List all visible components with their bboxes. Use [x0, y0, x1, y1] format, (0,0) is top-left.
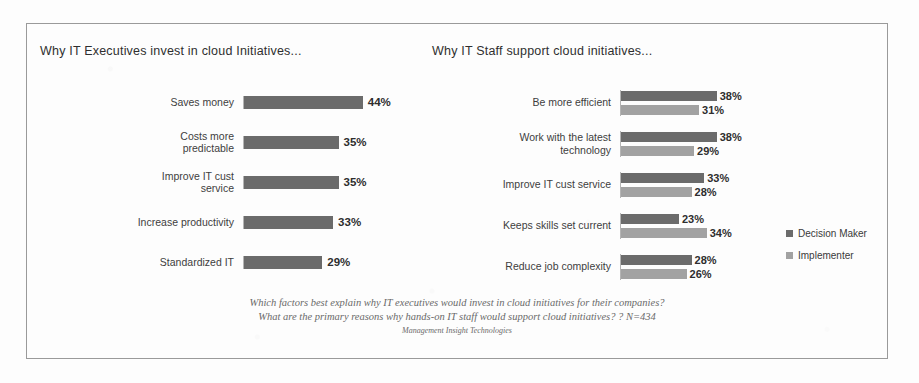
bar-with-value: 23%	[621, 213, 782, 225]
bar-pair: 38%31%	[621, 90, 782, 116]
category-label: Standardized IT	[110, 256, 243, 269]
category-label: Be more efficient	[452, 96, 620, 109]
bar-with-value: 31%	[621, 104, 782, 116]
chart-row: Be more efficient38%31%	[452, 82, 782, 123]
bar-with-value: 29%	[244, 256, 410, 269]
bar-implementer	[621, 187, 692, 197]
plot-area: 23%34%	[620, 213, 782, 239]
bar-implementer	[621, 269, 687, 279]
left-bar-chart: Saves money44%Costs morepredictable35%Im…	[110, 82, 410, 282]
category-label: Increase productivity	[110, 216, 243, 229]
bar-value-label: 34%	[707, 227, 732, 239]
plot-area: 35%	[243, 136, 410, 149]
chart-row: Improve IT custservice35%	[110, 162, 410, 202]
bar-value-label: 38%	[717, 131, 742, 143]
bar-value-label: 35%	[339, 176, 367, 188]
bar-decision-maker	[244, 176, 339, 189]
category-label: Saves money	[110, 96, 243, 109]
bar-value-label: 33%	[704, 172, 729, 184]
bar-value-label: 28%	[692, 254, 717, 266]
bar-with-value: 44%	[244, 96, 410, 109]
bar-with-value: 29%	[621, 145, 782, 157]
plot-area: 29%	[243, 256, 410, 269]
bar-decision-maker	[621, 214, 679, 224]
bar-value-label: 35%	[339, 136, 367, 148]
bar-with-value: 33%	[244, 216, 410, 229]
legend-label: Decision Maker	[798, 228, 867, 239]
plot-area: 28%26%	[620, 254, 782, 280]
chart-row: Work with the latesttechnology38%29%	[452, 123, 782, 164]
bar-pair: 23%34%	[621, 213, 782, 239]
bar-decision-maker	[621, 91, 717, 101]
footnote-line-2: What are the primary reasons why hands-o…	[26, 310, 888, 324]
bar-value-label: 44%	[363, 96, 391, 108]
plot-area: 38%29%	[620, 131, 782, 157]
legend-item: Implementer	[786, 250, 867, 261]
category-label: Improve IT cust service	[452, 178, 620, 191]
chart-row: Standardized IT29%	[110, 242, 410, 282]
bar-value-label: 38%	[717, 90, 742, 102]
chart-row: Reduce job complexity28%26%	[452, 246, 782, 287]
bar-decision-maker	[244, 96, 363, 109]
category-label: Keeps skills set current	[452, 219, 620, 232]
right-chart-title: Why IT Staff support cloud initiatives..…	[432, 44, 652, 58]
plot-area: 35%	[243, 176, 410, 189]
bar-value-label: 33%	[333, 216, 361, 228]
bar-value-label: 29%	[694, 145, 719, 157]
category-label: Reduce job complexity	[452, 260, 620, 273]
plot-area: 33%28%	[620, 172, 782, 198]
bar-decision-maker	[621, 255, 692, 265]
plot-area: 44%	[243, 96, 410, 109]
bar-pair: 33%28%	[621, 172, 782, 198]
bar-pair: 38%29%	[621, 131, 782, 157]
bar-decision-maker	[244, 256, 322, 269]
bar-value-label: 31%	[699, 104, 724, 116]
bar-with-value: 28%	[621, 254, 782, 266]
legend-swatch-icon	[786, 252, 793, 259]
bar-value-label: 26%	[687, 268, 712, 280]
bar-decision-maker	[621, 173, 704, 183]
bar-value-label: 29%	[322, 256, 350, 268]
chart-row: Keeps skills set current23%34%	[452, 205, 782, 246]
chart-row: Increase productivity33%	[110, 202, 410, 242]
bar-value-label: 23%	[679, 213, 704, 225]
bar-implementer	[621, 105, 699, 115]
bar-pair: 28%26%	[621, 254, 782, 280]
bar-implementer	[621, 146, 694, 156]
bar-with-value: 38%	[621, 131, 782, 143]
category-label: Work with the latesttechnology	[452, 131, 620, 156]
chart-row: Saves money44%	[110, 82, 410, 122]
category-label: Improve IT custservice	[110, 170, 243, 195]
footnote-source: Management Insight Technologies	[26, 325, 888, 337]
bar-with-value: 38%	[621, 90, 782, 102]
category-label: Costs morepredictable	[110, 130, 243, 155]
legend-swatch-icon	[786, 230, 793, 237]
bar-with-value: 35%	[244, 136, 410, 149]
bar-decision-maker	[621, 132, 717, 142]
bar-with-value: 34%	[621, 227, 782, 239]
plot-area: 38%31%	[620, 90, 782, 116]
bar-with-value: 33%	[621, 172, 782, 184]
bar-with-value: 35%	[244, 176, 410, 189]
chart-legend: Decision MakerImplementer	[786, 228, 867, 272]
bar-value-label: 28%	[692, 186, 717, 198]
bar-with-value: 26%	[621, 268, 782, 280]
chart-row: Costs morepredictable35%	[110, 122, 410, 162]
legend-item: Decision Maker	[786, 228, 867, 239]
chart-row: Improve IT cust service33%28%	[452, 164, 782, 205]
bar-with-value: 28%	[621, 186, 782, 198]
bar-decision-maker	[244, 136, 339, 149]
bar-implementer	[621, 228, 707, 238]
legend-label: Implementer	[798, 250, 854, 261]
bar-decision-maker	[244, 216, 333, 229]
plot-area: 33%	[243, 216, 410, 229]
footnote-line-1: Which factors best explain why IT execut…	[26, 296, 888, 310]
footnote: Which factors best explain why IT execut…	[26, 296, 888, 337]
right-bar-chart: Be more efficient38%31%Work with the lat…	[452, 82, 782, 287]
left-chart-title: Why IT Executives invest in cloud Initia…	[40, 44, 302, 58]
